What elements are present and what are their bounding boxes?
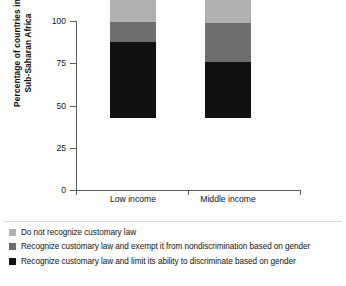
y-tick-label-75: 75 xyxy=(26,58,66,68)
y-tick-label-50: 50 xyxy=(26,101,66,111)
legend-swatch-icon-light-gray xyxy=(9,229,16,236)
legend-label-exempt: Recognize customary law and exempt it fr… xyxy=(21,242,310,251)
x-tick-right xyxy=(300,190,301,195)
bar-segment xyxy=(205,0,251,23)
plot-area: Percentage of countries in Sub-Saharan A… xyxy=(0,0,346,214)
y-tick-25 xyxy=(70,148,76,149)
y-tick-label-25: 25 xyxy=(26,143,66,153)
chart-figure: Percentage of countries in Sub-Saharan A… xyxy=(0,0,346,286)
bar-segment xyxy=(110,42,156,118)
x-tick-left xyxy=(76,190,77,195)
x-category-label-middle-income: Middle income xyxy=(173,194,283,204)
bar-segment xyxy=(110,0,156,22)
bar-segment xyxy=(110,22,156,42)
legend-swatch-icon-black xyxy=(9,258,16,265)
x-category-label-low-income: Low income xyxy=(78,194,188,204)
y-tick-label-0: 0 xyxy=(26,185,66,195)
y-tick-100 xyxy=(70,21,76,22)
y-axis-line xyxy=(76,21,77,190)
legend-swatch-icon-mid-gray xyxy=(9,243,16,250)
legend-item-limit[interactable]: Recognize customary law and limit its ab… xyxy=(4,254,342,269)
legend: Do not recognize customary law Recognize… xyxy=(4,221,342,271)
legend-label-do-not-recognize: Do not recognize customary law xyxy=(21,228,136,237)
y-tick-50 xyxy=(70,106,76,107)
y-tick-75 xyxy=(70,63,76,64)
y-tick-label-100: 100 xyxy=(26,16,66,26)
bar-low-income[interactable] xyxy=(110,0,156,118)
bar-segment xyxy=(205,62,251,118)
legend-item-do-not-recognize[interactable]: Do not recognize customary law xyxy=(4,225,342,240)
legend-item-exempt[interactable]: Recognize customary law and exempt it fr… xyxy=(4,240,342,255)
bar-segment xyxy=(205,23,251,62)
legend-label-limit: Recognize customary law and limit its ab… xyxy=(21,257,296,266)
y-axis-title-line-1: Percentage of countries in xyxy=(12,0,23,138)
bar-middle-income[interactable] xyxy=(205,0,251,118)
